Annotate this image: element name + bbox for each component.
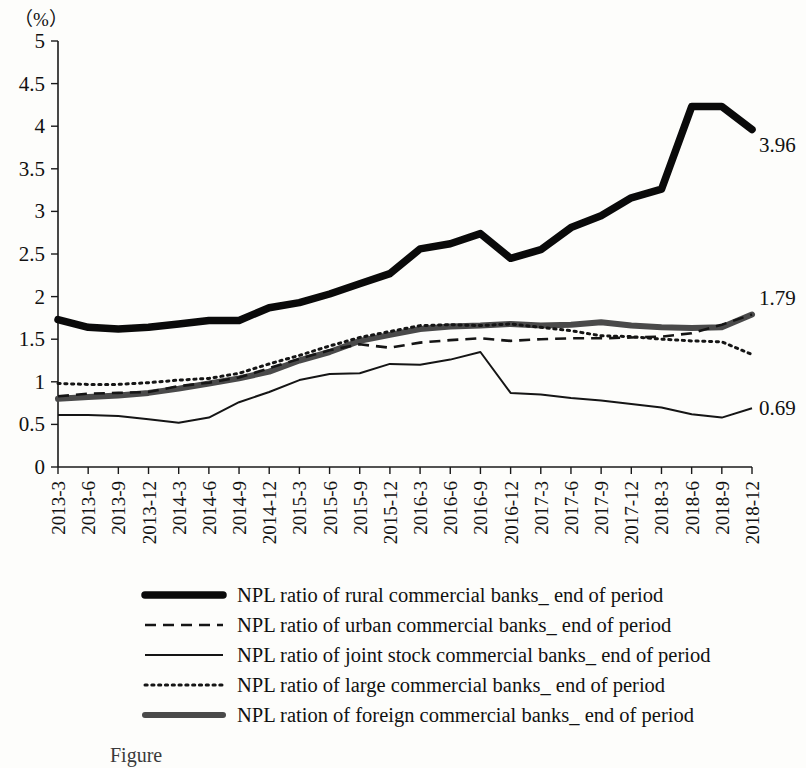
- series-end-value-label: 1.79: [759, 286, 796, 310]
- legend-item[interactable]: NPL ratio of large commercial banks_ end…: [145, 674, 665, 697]
- x-axis-tick-label: 2013-12: [139, 481, 160, 544]
- legend-item[interactable]: NPL ratio of urban commercial banks_ end…: [145, 614, 671, 637]
- y-axis-unit-label: （%）: [14, 4, 68, 31]
- x-axis-tick-label: 2017-3: [531, 481, 552, 535]
- x-axis-tick-label: 2018-3: [651, 481, 672, 535]
- y-axis-tick-label: 3.5: [19, 157, 45, 181]
- x-axis-tick-label: 2016-9: [470, 481, 491, 535]
- series-line: [58, 352, 752, 423]
- x-axis-tick-label: 2014-6: [199, 481, 220, 535]
- y-axis-tick-label: 0: [35, 455, 46, 479]
- y-axis-tick-label: 2.5: [19, 242, 45, 266]
- y-axis-tick-label: 4: [35, 114, 46, 138]
- y-axis-tick-group: 00.511.522.533.544.55: [19, 29, 58, 479]
- figure-caption: Figure: [110, 744, 162, 767]
- y-axis-tick-label: 1: [35, 370, 46, 394]
- npl-ratio-line-chart: 00.511.522.533.544.55 2013-32013-62013-9…: [0, 0, 806, 768]
- legend-item[interactable]: NPL ratio of rural commercial banks_ end…: [145, 584, 663, 607]
- x-axis-tick-label: 2018-9: [712, 481, 733, 535]
- chart-figure: （%） 00.511.522.533.544.55 2013-32013-620…: [0, 0, 806, 768]
- chart-legend: NPL ratio of rural commercial banks_ end…: [145, 584, 710, 727]
- x-axis-tick-label: 2015-9: [350, 481, 371, 535]
- data-series-group: [58, 107, 752, 423]
- x-axis-tick-label: 2018-6: [682, 481, 703, 535]
- x-axis-tick-label: 2013-3: [48, 481, 69, 535]
- x-axis-tick-label: 2014-3: [169, 481, 190, 535]
- x-axis-tick-label: 2016-3: [410, 481, 431, 535]
- legend-label: NPL ratio of joint stock commercial bank…: [237, 644, 710, 667]
- y-axis-tick-label: 0.5: [19, 412, 45, 436]
- x-axis-tick-label: 2013-9: [108, 481, 129, 535]
- x-axis-tick-label: 2017-9: [591, 481, 612, 535]
- legend-label: NPL ration of foreign commercial banks_ …: [237, 704, 694, 727]
- x-axis-tick-label: 2016-12: [501, 481, 522, 544]
- x-axis-tick-label: 2014-9: [229, 481, 250, 535]
- y-axis-tick-label: 1.5: [19, 327, 45, 351]
- y-axis-tick-label: 4.5: [19, 72, 45, 96]
- x-axis-tick-label: 2016-6: [440, 481, 461, 535]
- x-axis-tick-label: 2015-12: [380, 481, 401, 544]
- x-axis-tick-label: 2018-12: [742, 481, 763, 544]
- y-axis-tick-label: 3: [35, 199, 46, 223]
- x-axis-tick-label: 2017-12: [621, 481, 642, 544]
- legend-label: NPL ratio of rural commercial banks_ end…: [237, 584, 663, 607]
- x-axis-tick-label: 2013-6: [78, 481, 99, 535]
- legend-label: NPL ratio of urban commercial banks_ end…: [237, 614, 671, 637]
- legend-item[interactable]: NPL ration of foreign commercial banks_ …: [145, 704, 694, 727]
- y-axis-tick-label: 2: [35, 285, 46, 309]
- series-line: [58, 107, 752, 329]
- x-axis-label-group: 2013-32013-62013-92013-122014-32014-6201…: [48, 481, 763, 544]
- legend-label: NPL ratio of large commercial banks_ end…: [237, 674, 665, 697]
- series-end-value-label: 3.96: [759, 133, 796, 157]
- series-end-value-label: 0.69: [759, 396, 796, 420]
- x-axis-tick-label: 2014-12: [259, 481, 280, 544]
- x-axis-tick-label: 2017-6: [561, 481, 582, 535]
- legend-item[interactable]: NPL ratio of joint stock commercial bank…: [145, 644, 710, 667]
- x-axis-tick-label: 2015-6: [320, 481, 341, 535]
- x-axis-tick-group: [58, 467, 752, 474]
- end-value-label-group: 3.960.691.79: [759, 133, 796, 421]
- x-axis-tick-label: 2015-3: [289, 481, 310, 535]
- y-axis-tick-label: 5: [35, 29, 46, 53]
